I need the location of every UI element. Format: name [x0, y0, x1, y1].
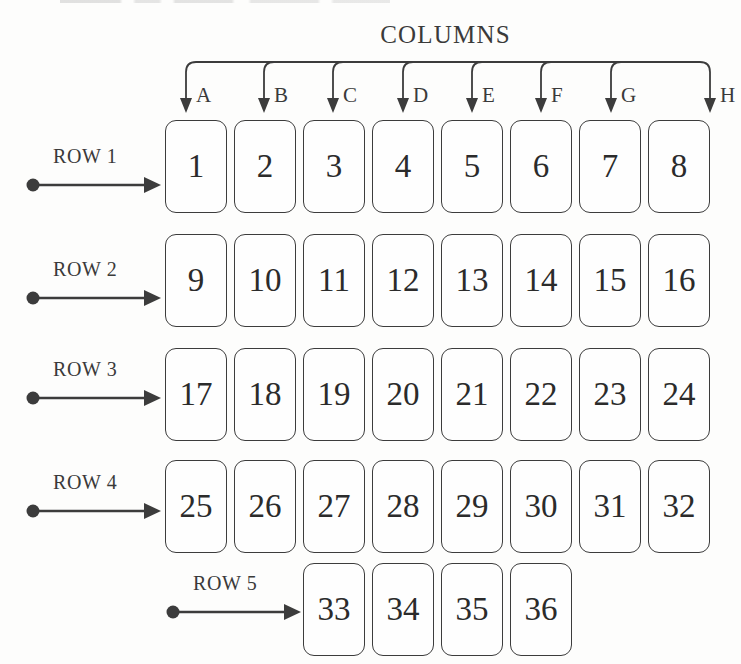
- row-arrowhead-4: [144, 503, 161, 519]
- grid-cell-f1[interactable]: 6: [510, 120, 572, 213]
- column-arrowhead-a: [180, 98, 192, 113]
- columns-title-text: COLUMNS: [230, 21, 511, 48]
- grid-cell-b1[interactable]: 2: [234, 120, 296, 213]
- grid-cell-f5[interactable]: 36: [510, 563, 572, 656]
- grid-cell-f4[interactable]: 30: [510, 460, 572, 553]
- bracket-drop-f: [541, 62, 551, 100]
- grid-cell-h2[interactable]: 16: [648, 234, 710, 327]
- row-label-2: ROW 2: [53, 259, 117, 279]
- columns-title: COLUMNS: [0, 21, 741, 49]
- grid-cell-b2[interactable]: 10: [234, 234, 296, 327]
- column-arrowhead-g: [605, 98, 617, 113]
- grid-cell-b4[interactable]: 26: [234, 460, 296, 553]
- row-arrowhead-2: [144, 290, 161, 306]
- grid-cell-a1[interactable]: 1: [165, 120, 227, 213]
- column-label-c: C: [343, 85, 357, 106]
- row-arrowhead-5: [284, 604, 301, 620]
- column-label-h: H: [720, 85, 735, 106]
- row-label-3: ROW 3: [53, 359, 117, 379]
- grid-cell-d4[interactable]: 28: [372, 460, 434, 553]
- grid-cell-c2[interactable]: 11: [303, 234, 365, 327]
- row-label-1: ROW 1: [53, 146, 117, 166]
- row-pointer-dot-1: [27, 179, 40, 192]
- row-arrowhead-1: [144, 177, 161, 193]
- grid-cell-c3[interactable]: 19: [303, 348, 365, 441]
- grid-cell-e5[interactable]: 35: [441, 563, 503, 656]
- row-pointer-dot-4: [27, 505, 40, 518]
- grid-cell-c4[interactable]: 27: [303, 460, 365, 553]
- grid-cell-g2[interactable]: 15: [579, 234, 641, 327]
- grid-cell-g3[interactable]: 23: [579, 348, 641, 441]
- column-arrowhead-e: [466, 98, 478, 113]
- column-arrowhead-h: [704, 98, 716, 113]
- grid-cell-a4[interactable]: 25: [165, 460, 227, 553]
- grid-cell-g4[interactable]: 31: [579, 460, 641, 553]
- row-arrowhead-3: [144, 390, 161, 406]
- row-pointer-dots: [27, 179, 180, 619]
- grid-cell-d2[interactable]: 12: [372, 234, 434, 327]
- column-label-f: F: [551, 85, 563, 106]
- grid-cell-e2[interactable]: 13: [441, 234, 503, 327]
- column-arrowhead-f: [535, 98, 547, 113]
- diagram-canvas: COLUMNS: [0, 0, 741, 664]
- grid-cell-e1[interactable]: 5: [441, 120, 503, 213]
- grid-cell-e4[interactable]: 29: [441, 460, 503, 553]
- grid-cell-d3[interactable]: 20: [372, 348, 434, 441]
- bracket-drop-d: [403, 62, 413, 100]
- column-label-g: G: [621, 85, 636, 106]
- row-pointer-dot-3: [27, 392, 40, 405]
- grid-cell-d5[interactable]: 34: [372, 563, 434, 656]
- grid-cell-h3[interactable]: 24: [648, 348, 710, 441]
- grid-cell-d1[interactable]: 4: [372, 120, 434, 213]
- grid-cell-g1[interactable]: 7: [579, 120, 641, 213]
- grid-cell-a3[interactable]: 17: [165, 348, 227, 441]
- column-label-a: A: [196, 85, 211, 106]
- grid-cell-f2[interactable]: 14: [510, 234, 572, 327]
- grid-cell-b3[interactable]: 18: [234, 348, 296, 441]
- grid-cell-c1[interactable]: 3: [303, 120, 365, 213]
- row-pointer-dot-5: [167, 606, 180, 619]
- scan-artifact: [60, 0, 390, 3]
- row-label-4: ROW 4: [53, 472, 117, 492]
- row-pointer-dot-2: [27, 292, 40, 305]
- bracket-drop-b: [264, 62, 274, 100]
- bracket-drop-e: [472, 62, 482, 100]
- column-label-d: D: [413, 85, 428, 106]
- column-label-e: E: [482, 85, 495, 106]
- column-label-b: B: [274, 85, 288, 106]
- grid-cell-h1[interactable]: 8: [648, 120, 710, 213]
- grid-cell-e3[interactable]: 21: [441, 348, 503, 441]
- grid-cell-c5[interactable]: 33: [303, 563, 365, 656]
- row-label-5: ROW 5: [193, 573, 257, 593]
- grid-cell-h4[interactable]: 32: [648, 460, 710, 553]
- bracket-drop-c: [333, 62, 343, 100]
- column-arrowhead-c: [327, 98, 339, 113]
- grid-cell-f3[interactable]: 22: [510, 348, 572, 441]
- column-arrowhead-b: [258, 98, 270, 113]
- grid-cell-a2[interactable]: 9: [165, 234, 227, 327]
- bracket-drop-g: [611, 62, 621, 100]
- column-arrowhead-d: [397, 98, 409, 113]
